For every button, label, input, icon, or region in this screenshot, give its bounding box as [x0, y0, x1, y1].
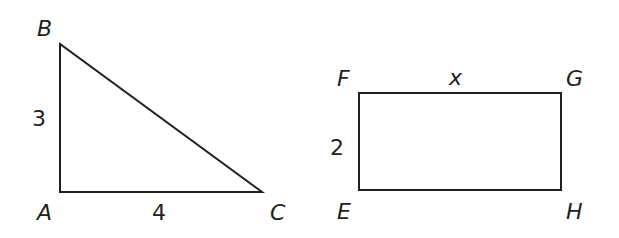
vertex-label-a: A	[35, 200, 52, 225]
right-triangle-abc	[60, 44, 262, 192]
rectangle-efgh	[359, 93, 561, 190]
geometry-figure: B A C 3 4 F G E H 2 x	[0, 0, 619, 238]
vertex-label-h: H	[566, 199, 583, 224]
vertex-label-b: B	[37, 16, 52, 41]
vertex-label-f: F	[337, 66, 350, 91]
vertex-label-e: E	[337, 199, 351, 224]
side-length-fg: x	[448, 65, 463, 90]
side-length-ab: 3	[32, 106, 46, 131]
side-length-ac: 4	[152, 200, 166, 225]
vertex-label-g: G	[566, 66, 583, 91]
side-length-fe: 2	[330, 135, 344, 160]
vertex-label-c: C	[270, 200, 286, 225]
